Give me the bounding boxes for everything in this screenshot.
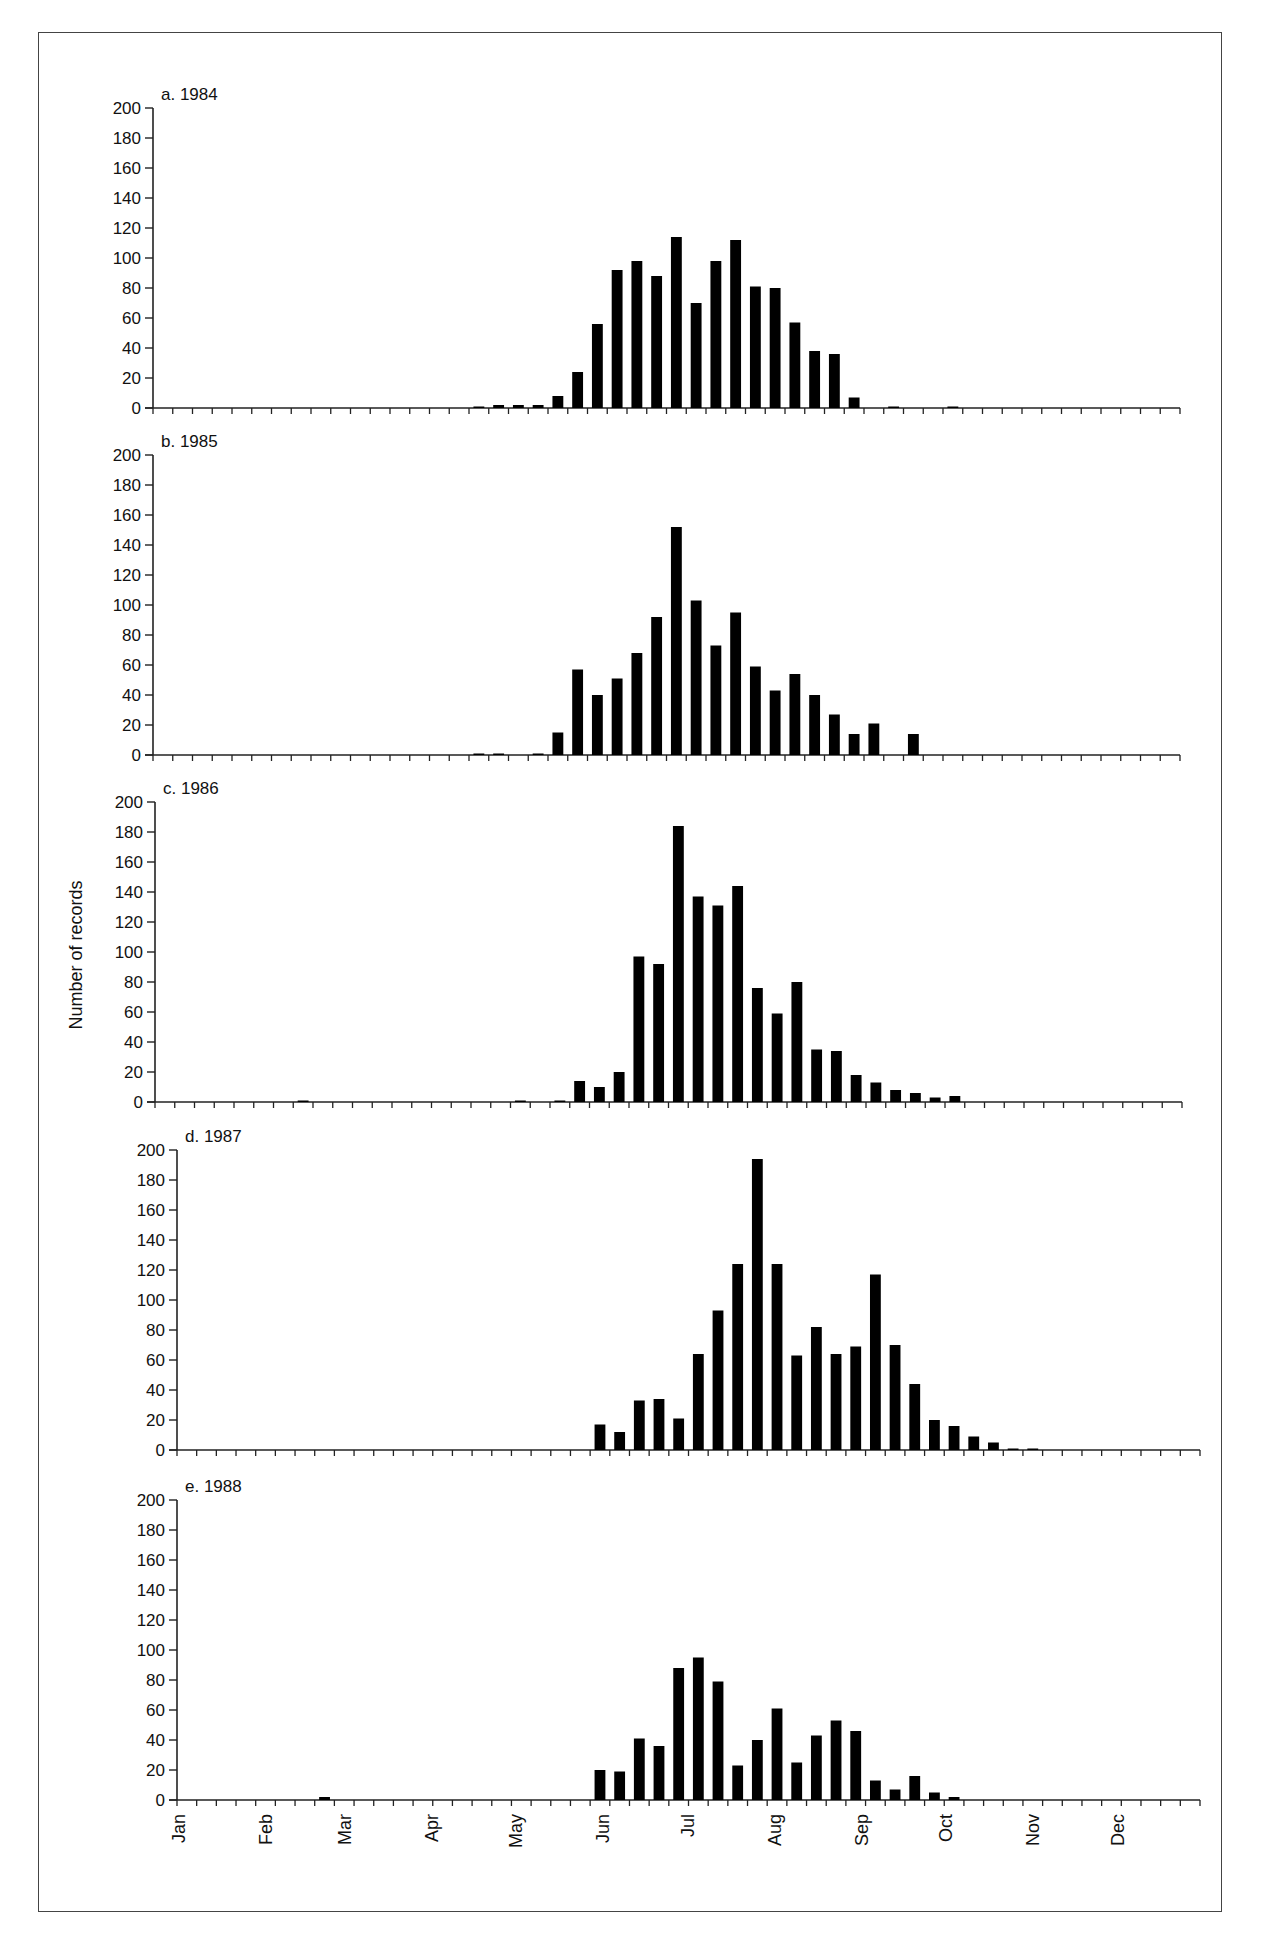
y-tick-label: 160 [113, 506, 141, 525]
bar [612, 679, 623, 756]
y-tick-label: 180 [113, 476, 141, 495]
panel-title: a. 1984 [161, 85, 218, 104]
bar [592, 695, 603, 755]
y-tick-label: 40 [146, 1731, 165, 1750]
y-tick-label: 60 [122, 309, 141, 328]
bar [791, 1356, 802, 1451]
month-label-sep: Sep [852, 1814, 872, 1846]
y-tick-label: 60 [146, 1351, 165, 1370]
bar [831, 1721, 842, 1801]
panel-title: b. 1985 [161, 432, 218, 451]
chart-panels: 020406080100120140160180200a. 1984020406… [113, 85, 1200, 1810]
y-tick-label: 140 [113, 189, 141, 208]
bar [949, 1797, 960, 1800]
bar [595, 1770, 606, 1800]
bar [634, 1401, 645, 1451]
bar [908, 734, 919, 755]
bar [595, 1425, 606, 1451]
bar [533, 405, 544, 408]
panel-title: e. 1988 [185, 1477, 242, 1496]
bar [319, 1797, 330, 1800]
bar [770, 691, 781, 756]
bar [968, 1437, 979, 1451]
y-tick-label: 200 [113, 446, 141, 465]
bar [730, 240, 741, 408]
bar [654, 1399, 665, 1450]
bar [752, 988, 763, 1102]
y-tick-label: 0 [132, 746, 141, 765]
bar [592, 324, 603, 408]
y-tick-label: 0 [156, 1441, 165, 1460]
y-tick-label: 200 [137, 1141, 165, 1160]
x-axis-month-labels: JanFebMarAprMayJunJulAugSepOctNovDec [169, 1814, 1128, 1848]
y-tick-label: 80 [124, 973, 143, 992]
bar [909, 1776, 920, 1800]
bar [533, 754, 544, 756]
bar [631, 653, 642, 755]
bar [789, 323, 800, 409]
bar [654, 1746, 665, 1800]
y-tick-label: 160 [113, 159, 141, 178]
bar [614, 1072, 625, 1102]
bar [789, 674, 800, 755]
month-label-feb: Feb [256, 1814, 276, 1845]
bar [850, 1731, 861, 1800]
bar [732, 1264, 743, 1450]
y-tick-label: 20 [122, 369, 141, 388]
bar [1027, 1449, 1038, 1451]
bar [653, 964, 664, 1102]
month-label-jun: Jun [593, 1814, 613, 1843]
y-tick-label: 20 [124, 1063, 143, 1082]
y-tick-label: 60 [124, 1003, 143, 1022]
bar [671, 237, 682, 408]
y-tick-label: 0 [132, 399, 141, 418]
bar [809, 351, 820, 408]
bar [554, 1101, 565, 1103]
bar [910, 1093, 921, 1102]
y-tick-label: 100 [137, 1291, 165, 1310]
y-tick-label: 180 [137, 1521, 165, 1540]
y-tick-label: 120 [113, 566, 141, 585]
bar [752, 1159, 763, 1450]
y-tick-label: 180 [137, 1171, 165, 1190]
bar [890, 1090, 901, 1102]
bar [552, 396, 563, 408]
y-tick-label: 160 [115, 853, 143, 872]
bar [631, 261, 642, 408]
bar [929, 1793, 940, 1801]
y-tick-label: 60 [122, 656, 141, 675]
y-tick-label: 40 [146, 1381, 165, 1400]
bar [710, 261, 721, 408]
bar [693, 1658, 704, 1801]
panel-1984: 020406080100120140160180200a. 1984 [113, 85, 1180, 418]
bar [849, 398, 860, 409]
bar [929, 1420, 940, 1450]
bar [710, 646, 721, 756]
bar [473, 407, 484, 409]
bar [809, 695, 820, 755]
month-label-jul: Jul [678, 1814, 698, 1837]
bar [752, 1740, 763, 1800]
y-tick-label: 140 [137, 1581, 165, 1600]
bar [572, 372, 583, 408]
bar [298, 1101, 309, 1103]
bar [493, 405, 504, 408]
y-tick-label: 60 [146, 1701, 165, 1720]
bar [673, 1419, 684, 1451]
y-tick-label: 200 [137, 1491, 165, 1510]
y-tick-label: 80 [146, 1321, 165, 1340]
bar [870, 1275, 881, 1451]
y-tick-label: 180 [115, 823, 143, 842]
bar [811, 1050, 822, 1103]
bar [750, 287, 761, 409]
bar [890, 1790, 901, 1801]
bar [730, 613, 741, 756]
bar [949, 1426, 960, 1450]
bar [909, 1384, 920, 1450]
bar [791, 982, 802, 1102]
bar [691, 601, 702, 756]
bar [829, 354, 840, 408]
bar [712, 906, 723, 1103]
bar [612, 270, 623, 408]
bar [673, 826, 684, 1102]
